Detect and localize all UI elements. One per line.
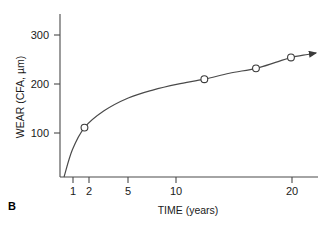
y-axis-title: WEAR (CFA, µm) (14, 56, 26, 138)
x-axis-title: TIME (years) (158, 204, 219, 216)
figure-panel-b: 300 200 100 1 2 5 10 20 TIME (years) WEA… (0, 0, 327, 226)
x-tick-label-1: 1 (70, 185, 76, 197)
x-tick-label-2: 2 (86, 185, 92, 197)
wear-vs-time-chart: 300 200 100 1 2 5 10 20 TIME (years) WEA… (0, 0, 327, 226)
y-tick-label-100: 100 (31, 127, 49, 139)
panel-label-b: B (8, 200, 16, 212)
data-point-markers (81, 54, 294, 131)
data-point (288, 54, 295, 61)
wear-curve (64, 53, 316, 177)
data-point (253, 65, 260, 72)
data-point (201, 76, 208, 83)
data-point (81, 124, 88, 131)
x-tick-label-20: 20 (286, 185, 298, 197)
x-tick-label-5: 5 (125, 185, 131, 197)
x-tick-label-10: 10 (170, 185, 182, 197)
y-tick-label-200: 200 (31, 78, 49, 90)
y-tick-label-300: 300 (31, 29, 49, 41)
